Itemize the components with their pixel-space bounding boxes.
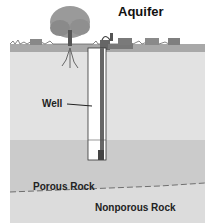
porous-rock-label: Porous Rock <box>33 181 95 192</box>
cattle <box>110 33 180 45</box>
well-label: Well <box>42 98 62 109</box>
diagram-title: Aquifer <box>118 4 164 19</box>
cross-section-illustration <box>0 0 205 223</box>
well-pipe <box>88 48 106 160</box>
soil-layer <box>10 48 205 140</box>
aquifer-diagram: Aquifer Well Porous Rock Nonporous Rock <box>0 0 205 223</box>
animal-left <box>30 39 42 45</box>
nonporous-rock-label: Nonporous Rock <box>95 202 176 213</box>
